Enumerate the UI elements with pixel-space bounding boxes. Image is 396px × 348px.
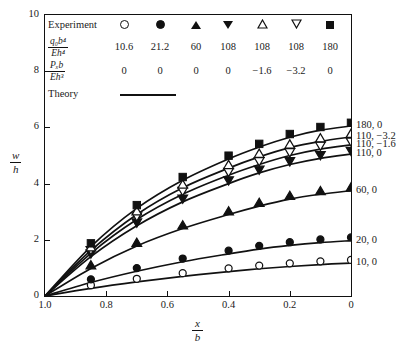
legend-p-value: 0 <box>211 65 245 76</box>
legend-title-experiment: Experiment <box>48 19 97 30</box>
data-point-open-up-triangle <box>316 134 326 142</box>
data-point-filled-circle <box>133 265 140 272</box>
legend-p-value: 0 <box>143 65 177 76</box>
x-axis-label-numerator: x <box>192 318 203 331</box>
legend-table: Experiment q₀b⁴ Eh⁴ 10.621.2601081081081… <box>48 16 328 105</box>
data-point-open-down-triangle <box>224 168 234 176</box>
data-point-filled-up-triangle <box>316 186 326 194</box>
curve-annotation-1: 10, 0 <box>356 257 377 268</box>
legend-row-experiment: Experiment <box>48 16 328 37</box>
legend-marker-open-circle <box>107 18 141 29</box>
data-point-open-circle <box>225 265 232 272</box>
y-tick-label: 6 <box>9 121 39 132</box>
data-point-filled-square <box>87 240 94 247</box>
x-tick-label: 0.8 <box>86 300 126 311</box>
legend-marker-filled-up-triangle <box>179 18 213 29</box>
y-axis-label-numerator: w <box>10 150 21 163</box>
theory-curve-5 <box>45 145 351 296</box>
x-axis-label-denominator: b <box>192 331 203 344</box>
x-axis-label: x b <box>0 318 395 343</box>
legend-marker-open-up-triangle <box>245 18 279 31</box>
legend-q-value: 108 <box>279 41 313 52</box>
data-point-filled-circle <box>348 234 352 241</box>
legend-p-value: 0 <box>313 65 347 76</box>
legend-marker-filled-square <box>313 18 347 29</box>
y-tick-mark <box>44 184 50 185</box>
legend-q-value: 10.6 <box>107 41 141 52</box>
x-tick-label: 0.2 <box>270 300 310 311</box>
legend-p-value: 0 <box>107 65 141 76</box>
data-point-filled-circle <box>179 255 186 262</box>
legend-header-force-numerator: Pₓb <box>48 61 65 72</box>
legend-row-inplane-force: Pₓb Eh³ 0000−1.6−3.20 <box>48 61 328 85</box>
legend-p-value: 0 <box>179 65 213 76</box>
legend-header-force-denominator: Eh³ <box>48 72 65 83</box>
data-point-filled-square <box>256 140 263 147</box>
data-point-filled-up-triangle <box>178 221 188 229</box>
data-point-filled-square <box>286 130 293 137</box>
legend-header-load-fraction: q₀b⁴ Eh⁴ <box>48 37 68 59</box>
y-tick-label: 4 <box>9 178 39 189</box>
legend-row-load: q₀b⁴ Eh⁴ 10.621.260108108108180 <box>48 37 328 61</box>
y-tick-label: 0 <box>9 290 39 301</box>
data-point-filled-circle <box>286 239 293 246</box>
data-point-filled-up-triangle <box>285 191 295 199</box>
data-point-filled-up-triangle <box>254 198 264 206</box>
legend-q-value: 108 <box>245 41 279 52</box>
y-tick-mark <box>44 127 50 128</box>
data-point-filled-circle <box>87 276 94 283</box>
x-tick-label: 0 <box>331 300 371 311</box>
data-point-filled-square <box>347 119 351 126</box>
data-point-open-circle <box>348 256 352 263</box>
legend-p-value: −1.6 <box>245 65 279 76</box>
data-point-filled-circle <box>256 242 263 249</box>
data-point-filled-up-triangle <box>346 183 351 191</box>
legend-marker-open-down-triangle <box>279 18 313 31</box>
curve-annotation-4: 110, 0 <box>356 148 382 159</box>
y-axis-label-denominator: h <box>10 163 21 176</box>
legend-q-value: 108 <box>211 41 245 52</box>
data-point-open-circle <box>179 270 186 277</box>
legend-row-theory: Theory <box>48 85 328 105</box>
data-point-open-up-triangle <box>346 129 351 137</box>
data-point-filled-square <box>133 201 140 208</box>
legend-q-value: 21.2 <box>143 41 177 52</box>
legend-header-force-fraction: Pₓb Eh³ <box>48 61 65 83</box>
data-point-filled-down-triangle <box>254 166 264 174</box>
data-point-open-circle <box>256 262 263 269</box>
y-tick-label: 2 <box>9 234 39 245</box>
legend-marker-filled-down-triangle <box>211 18 245 29</box>
x-tick-label: 0.4 <box>209 300 249 311</box>
x-tick-mark <box>351 291 352 297</box>
curve-annotation-6: 110, −3.2 <box>356 131 396 142</box>
y-axis-label: w h <box>10 150 21 175</box>
x-tick-mark <box>106 291 107 297</box>
legend-header-load-numerator: q₀b⁴ <box>48 37 68 48</box>
x-tick-mark <box>290 291 291 297</box>
data-point-filled-circle <box>225 247 232 254</box>
x-tick-mark <box>167 291 168 297</box>
data-point-open-circle <box>286 260 293 267</box>
x-tick-label: 1.0 <box>25 300 65 311</box>
legend-theory-line-sample <box>120 94 176 96</box>
y-tick-label: 8 <box>9 65 39 76</box>
legend-q-value: 180 <box>313 41 347 52</box>
legend-title-theory: Theory <box>48 88 78 99</box>
data-point-open-up-triangle <box>285 140 295 148</box>
legend-q-value: 60 <box>179 41 213 52</box>
data-point-filled-down-triangle <box>224 177 234 185</box>
curve-annotation-3: 60, 0 <box>356 185 377 196</box>
data-point-open-up-triangle <box>254 149 264 157</box>
legend-marker-filled-circle <box>143 18 177 29</box>
data-point-open-up-triangle <box>224 160 234 168</box>
data-point-filled-square <box>225 152 232 159</box>
data-point-filled-circle <box>317 236 324 243</box>
legend-p-value: −3.2 <box>279 65 313 76</box>
data-point-filled-up-triangle <box>224 207 234 215</box>
data-point-open-circle <box>133 275 140 282</box>
x-tick-label: 0.6 <box>147 300 187 311</box>
legend-header-load-denominator: Eh⁴ <box>48 48 68 59</box>
curve-annotation-7: 180, 0 <box>356 120 382 131</box>
data-point-open-circle <box>317 258 324 265</box>
